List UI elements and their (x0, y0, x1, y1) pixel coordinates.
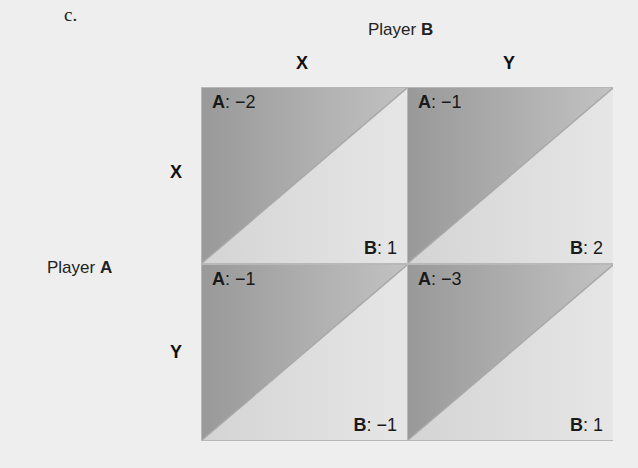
player-b-name: B (421, 20, 433, 39)
player-a-name: A (100, 258, 112, 277)
player-b-tag: B (570, 238, 583, 258)
row-header-x: X (170, 162, 182, 183)
payoff-a: A: −1 (418, 92, 462, 113)
payoff-a: A: −1 (212, 269, 256, 290)
payoff-a-value: : −3 (431, 269, 462, 289)
player-a-prefix: Player (47, 258, 100, 277)
player-b-tag: B (364, 238, 377, 258)
payoff-b: B: 2 (570, 238, 603, 259)
payoff-b: B: −1 (353, 415, 397, 436)
player-a-tag: A (212, 269, 225, 289)
player-b-prefix: Player (368, 20, 421, 39)
payoff-cell-y-x: A: −1 B: −1 (202, 265, 407, 440)
cell-diagonal-graphic (202, 265, 407, 440)
payoff-cell-x-y: A: −1 B: 2 (408, 88, 613, 263)
payoff-b-value: : −1 (366, 415, 397, 435)
payoff-a-value: : −2 (225, 92, 256, 112)
payoff-b: B: 1 (364, 238, 397, 259)
payoff-cell-y-y: A: −3 B: 1 (408, 265, 613, 440)
player-a-label: Player A (47, 258, 112, 278)
cell-diagonal-graphic (408, 88, 613, 263)
player-b-label: Player B (368, 20, 433, 40)
payoff-b: B: 1 (570, 415, 603, 436)
payoff-a-value: : −1 (431, 92, 462, 112)
payoff-a-value: : −1 (225, 269, 256, 289)
payoff-b-value: : 1 (583, 415, 603, 435)
column-header-y: Y (503, 53, 515, 74)
payoff-b-value: : 1 (377, 238, 397, 258)
cell-diagonal-graphic (408, 265, 613, 440)
player-a-tag: A (418, 92, 431, 112)
payoff-b-value: : 2 (583, 238, 603, 258)
player-a-tag: A (418, 269, 431, 289)
row-header-y: Y (170, 342, 182, 363)
part-label: c. (64, 4, 77, 26)
player-a-tag: A (212, 92, 225, 112)
payoff-a: A: −2 (212, 92, 256, 113)
player-b-tag: B (570, 415, 583, 435)
payoff-a: A: −3 (418, 269, 462, 290)
cell-diagonal-graphic (202, 88, 407, 263)
payoff-cell-x-x: A: −2 B: 1 (202, 88, 407, 263)
player-b-tag: B (353, 415, 366, 435)
payoff-matrix: A: −2 B: 1 A: −1 B: 2 A: −1 B: −1 A: −3 … (201, 87, 613, 441)
column-header-x: X (296, 53, 308, 74)
